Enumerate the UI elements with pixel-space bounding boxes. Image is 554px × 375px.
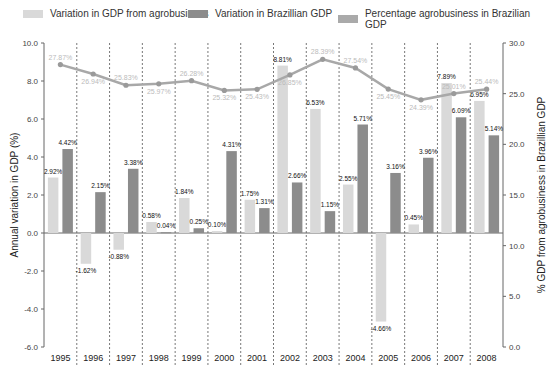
bar-value-label: 5.14% <box>485 125 504 132</box>
left-axis-tick-label: 10.0 <box>22 39 38 48</box>
x-axis-year-label: 2002 <box>280 353 300 363</box>
bar-value-label: 6.09% <box>452 107 471 114</box>
bar-value-label: -4.66% <box>371 325 392 332</box>
bar-value-label: 4.42% <box>58 139 77 146</box>
bar-brazil-gdp <box>194 228 205 233</box>
x-axis-year-label: 1995 <box>50 353 70 363</box>
bar-value-label: 3.38% <box>124 159 143 166</box>
bar-agrobusiness <box>277 66 288 233</box>
line-marker <box>58 62 63 67</box>
bar-brazil-gdp <box>325 211 336 233</box>
x-axis-year-label: 2006 <box>411 353 431 363</box>
left-axis-title: Annual variation in GDP (%) <box>9 133 20 258</box>
bar-value-label: 8.81% <box>273 56 292 63</box>
bar-brazil-gdp <box>161 232 172 233</box>
x-axis-year-label: 1996 <box>83 353 103 363</box>
bar-value-label: 2.66% <box>288 172 307 179</box>
bar-agrobusiness <box>48 178 59 233</box>
line-value-label: 25.83% <box>114 74 138 81</box>
bar-value-label: -0.88% <box>108 253 129 260</box>
bar-value-label: 5.71% <box>353 115 372 122</box>
line-value-label: 25.43% <box>245 93 269 100</box>
bar-value-label: 1.84% <box>175 188 194 195</box>
x-axis-year-label: 2008 <box>477 353 497 363</box>
bar-agrobusiness <box>245 200 256 233</box>
bar-value-label: 1.31% <box>255 198 274 205</box>
line-value-label: 25.32% <box>212 94 236 101</box>
bar-brazil-gdp <box>95 192 106 233</box>
line-marker <box>418 97 423 102</box>
bar-value-label: 0.25% <box>190 218 209 225</box>
x-axis-year-label: 2003 <box>313 353 333 363</box>
line-marker <box>353 65 358 70</box>
bar-value-label: 3.96% <box>419 148 438 155</box>
bar-agrobusiness <box>146 222 157 233</box>
line-marker <box>386 87 391 92</box>
left-axis-tick-label: 6.0 <box>27 115 39 124</box>
bar-value-label: 2.15% <box>91 182 110 189</box>
left-axis-tick-label: 8.0 <box>27 77 39 86</box>
bar-brazil-gdp <box>128 169 139 233</box>
x-axis-year-label: 1998 <box>149 353 169 363</box>
right-axis-tick-label: 10.0 <box>509 242 525 251</box>
bar-value-label: 3.16% <box>386 163 405 170</box>
bar-agrobusiness <box>474 101 485 233</box>
right-axis-tick-label: 5.0 <box>509 292 521 301</box>
line-value-label: 26.85% <box>278 79 302 86</box>
bar-brazil-gdp <box>456 117 467 233</box>
x-axis-year-label: 2000 <box>214 353 234 363</box>
bar-value-label: 1.15% <box>321 201 340 208</box>
line-marker <box>189 78 194 83</box>
bar-brazil-gdp <box>62 149 72 233</box>
line-marker <box>255 87 260 92</box>
line-marker <box>451 91 456 96</box>
x-axis-year-label: 2005 <box>378 353 398 363</box>
bar-agrobusiness <box>179 198 190 233</box>
line-value-label: 26.28% <box>180 70 204 77</box>
right-axis-tick-label: 25.0 <box>509 90 525 99</box>
line-value-label: 24.39% <box>409 104 433 111</box>
left-axis-tick-label: -4.0 <box>24 305 38 314</box>
bar-agrobusiness <box>409 224 420 233</box>
bar-value-label: 4.31% <box>222 141 241 148</box>
bar-value-label: 0.45% <box>405 214 424 221</box>
line-value-label: 27.54% <box>344 57 368 64</box>
right-axis-title: % GDP from agrobusiness in Brazillian GD… <box>536 96 547 293</box>
line-value-label: 25.01% <box>442 83 466 90</box>
bar-agrobusiness <box>81 233 92 264</box>
line-marker <box>484 87 489 92</box>
bar-value-label: 1.75% <box>241 190 260 197</box>
right-axis-tick-label: 30.0 <box>509 39 525 48</box>
bar-value-label: 7.89% <box>437 73 456 80</box>
bar-brazil-gdp <box>226 151 237 233</box>
line-value-label: 28.39% <box>311 48 335 55</box>
bar-agrobusiness <box>441 83 452 233</box>
x-axis-year-label: 2004 <box>345 353 365 363</box>
line-value-label: 27.87% <box>49 54 73 61</box>
x-axis-year-label: 1997 <box>116 353 136 363</box>
left-axis-tick-label: -2.0 <box>24 267 38 276</box>
bar-agrobusiness <box>376 233 387 322</box>
line-value-label: 25.97% <box>147 88 171 95</box>
line-marker <box>222 88 227 93</box>
bar-agrobusiness <box>343 185 354 233</box>
bar-brazil-gdp <box>423 158 434 233</box>
bar-agrobusiness <box>212 231 223 233</box>
line-value-label: 25.45% <box>376 93 400 100</box>
bar-brazil-gdp <box>390 173 401 233</box>
bar-brazil-gdp <box>489 135 500 233</box>
bar-value-label: 0.04% <box>157 222 176 229</box>
left-axis-tick-label: 4.0 <box>27 153 39 162</box>
bar-value-label: 0.10% <box>208 221 227 228</box>
line-marker <box>320 57 325 62</box>
gdp-chart: 10.08.06.04.02.00.0-2.0-4.0-6.030.025.02… <box>0 0 554 375</box>
line-marker <box>156 81 161 86</box>
line-value-label: 25.44% <box>475 78 499 85</box>
bar-value-label: 2.92% <box>44 168 63 175</box>
right-axis-tick-label: 20.0 <box>509 140 525 149</box>
left-axis-tick-label: -6.0 <box>24 343 38 352</box>
bar-value-label: 2.55% <box>339 175 358 182</box>
left-axis-tick-label: 0.0 <box>27 229 39 238</box>
bar-brazil-gdp <box>357 125 368 233</box>
line-value-label: 26.94% <box>81 78 105 85</box>
